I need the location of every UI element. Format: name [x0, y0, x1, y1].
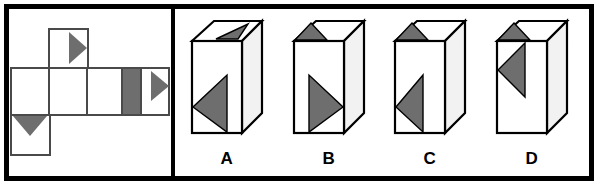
net-face-top-square [49, 29, 88, 68]
option-d-right-face [547, 21, 567, 133]
spatial-reasoning-puzzle: A B C [0, 0, 598, 185]
option-c-right-face [445, 21, 465, 133]
option-b-box-svg [284, 13, 374, 141]
option-b-right-face [344, 21, 364, 133]
net-face-middle-square-3 [87, 68, 123, 115]
answer-option-d[interactable]: D [482, 13, 582, 173]
answer-options-panel: A B C [175, 9, 590, 176]
option-c-box-svg [385, 13, 475, 141]
unfolded-cube-net-panel [9, 9, 171, 176]
option-b-label: B [279, 150, 379, 167]
unfolded-cube-net-svg [9, 9, 171, 176]
net-face-bottom-square [11, 115, 50, 155]
option-a-label: A [177, 150, 277, 167]
net-face-middle-square-5 [141, 68, 169, 115]
answer-option-a[interactable]: A [177, 13, 277, 173]
option-d-label: D [482, 150, 582, 167]
gray-vertical-band [123, 69, 141, 114]
answer-option-b[interactable]: B [279, 13, 379, 173]
option-d-box-svg [487, 13, 577, 141]
option-a-right-face [242, 21, 262, 133]
option-a-box-svg [182, 13, 272, 141]
answer-option-c[interactable]: C [380, 13, 480, 173]
net-face-middle-square-1 [11, 68, 50, 115]
option-c-label: C [380, 150, 480, 167]
net-face-middle-square-2 [49, 68, 88, 115]
